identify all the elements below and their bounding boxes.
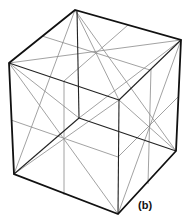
right-face-guides xyxy=(118,40,181,214)
top-face-guides xyxy=(9,10,181,100)
inner-edges xyxy=(9,40,181,214)
left-face-guides xyxy=(9,63,119,214)
cube-diagram xyxy=(0,0,191,224)
figure-label: (b) xyxy=(138,199,152,211)
